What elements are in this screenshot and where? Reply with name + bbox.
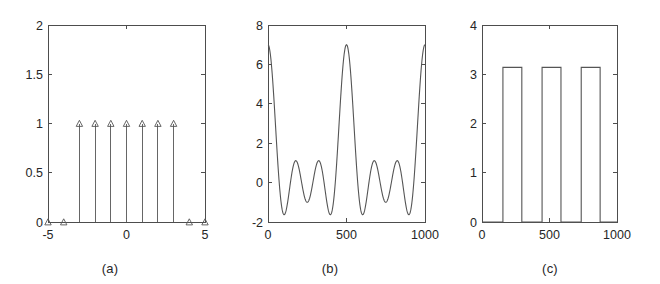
panel-a-stem-series bbox=[45, 120, 208, 225]
panel-b-dirichlet-curve bbox=[268, 45, 425, 215]
panel-b-x-ticks bbox=[268, 25, 425, 222]
panel-c-ytick-4: 4 bbox=[470, 19, 477, 33]
panel-b-caption: (b) bbox=[220, 261, 440, 276]
panel-a-xtick-1: 0 bbox=[123, 228, 130, 242]
panel-b-xtick-0: 0 bbox=[265, 228, 272, 242]
panel-c-xtick-2: 1000 bbox=[603, 228, 631, 242]
panel-a-ytick-3: 1.5 bbox=[26, 68, 43, 82]
panel-b-ytick-5: 8 bbox=[256, 19, 263, 33]
panel-b-y-ticks bbox=[268, 25, 425, 222]
panel-b-ytick-1: 0 bbox=[256, 176, 263, 190]
panel-a-xtick-2: 5 bbox=[202, 228, 209, 242]
panel-b-ytick-2: 2 bbox=[256, 137, 263, 151]
panel-c-ytick-3: 3 bbox=[470, 68, 477, 82]
panel-c-xtick-0: 0 bbox=[479, 228, 486, 242]
panel-c-y-ticks bbox=[482, 25, 617, 222]
panel-c-caption: (c) bbox=[440, 261, 660, 276]
panel-c-ytick-2: 2 bbox=[470, 117, 477, 131]
panel-a-caption: (a) bbox=[0, 261, 220, 276]
panel-b-plot: -2 0 2 4 6 8 0 500 1000 bbox=[220, 0, 440, 250]
panel-c-xtick-1: 500 bbox=[539, 228, 560, 242]
panel-b-ytick-3: 4 bbox=[256, 97, 263, 111]
panel-a-plot: 0 0.5 1 1.5 2 -5 0 5 bbox=[0, 0, 220, 250]
panel-a-ytick-4: 2 bbox=[36, 19, 43, 33]
panel-a-ytick-2: 1 bbox=[36, 117, 43, 131]
panel-c-ytick-0: 0 bbox=[470, 216, 477, 230]
panel-c-axes-box bbox=[482, 25, 617, 222]
panel-b-xtick-2: 1000 bbox=[411, 228, 439, 242]
panel-b-xtick-1: 500 bbox=[336, 228, 357, 242]
panel-b-ytick-4: 6 bbox=[256, 58, 263, 72]
panel-b-axes-box bbox=[268, 25, 425, 222]
panel-c: 0 1 2 3 4 0 500 1000 (c) bbox=[440, 0, 660, 284]
panel-a: 0 0.5 1 1.5 2 -5 0 5 (a) bbox=[0, 0, 220, 284]
panel-a-ytick-1: 0.5 bbox=[26, 166, 43, 180]
panel-c-square-wave bbox=[482, 67, 617, 222]
panel-c-ytick-1: 1 bbox=[470, 166, 477, 180]
panel-c-plot: 0 1 2 3 4 0 500 1000 bbox=[440, 0, 660, 250]
figure-container: 0 0.5 1 1.5 2 -5 0 5 (a) bbox=[0, 0, 660, 284]
panel-a-xtick-0: -5 bbox=[42, 228, 53, 242]
panel-c-x-ticks bbox=[482, 25, 617, 222]
panel-b: -2 0 2 4 6 8 0 500 1000 (b) bbox=[220, 0, 440, 284]
panel-b-ytick-0: -2 bbox=[252, 216, 263, 230]
